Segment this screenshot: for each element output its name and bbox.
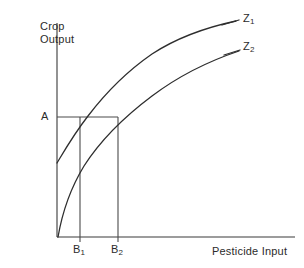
production-function-chart: CropOutput Pesticide Input Z1 Z2 A B1 B2 xyxy=(0,0,304,268)
tick-label-b1-text: B xyxy=(73,243,81,255)
y-axis-title: CropOutput xyxy=(40,20,74,45)
tick-label-b1-subscript: 1 xyxy=(81,248,85,257)
tick-label-b2-subscript: 2 xyxy=(119,248,123,257)
curve-label-z1-text: Z xyxy=(243,12,250,24)
curve-label-z2-text: Z xyxy=(243,40,250,52)
curve-label-z1: Z1 xyxy=(243,12,254,25)
curve-label-z2: Z2 xyxy=(243,40,254,53)
y-axis-title-line2: Output xyxy=(40,33,74,45)
leader-line-z1 xyxy=(222,20,239,25)
y-axis-value-label-a: A xyxy=(41,110,49,123)
x-axis-tick-label-b2: B2 xyxy=(111,243,123,256)
curve-label-z1-subscript: 1 xyxy=(250,17,254,26)
curve-z1 xyxy=(57,21,236,163)
curve-label-z2-subscript: 2 xyxy=(250,45,254,54)
x-axis-title: Pesticide Input xyxy=(212,245,287,258)
tick-label-b2-text: B xyxy=(111,243,119,255)
curve-z2 xyxy=(58,51,239,237)
y-axis-title-line1: Crop xyxy=(40,20,65,32)
x-axis-tick-label-b1: B1 xyxy=(73,243,85,256)
leader-line-z2 xyxy=(224,50,240,55)
